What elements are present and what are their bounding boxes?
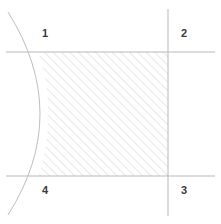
hatched-region [39, 52, 168, 176]
corner-label-1: 1 [42, 28, 48, 39]
corner-label-3: 3 [181, 185, 187, 196]
corner-label-2: 2 [181, 28, 187, 39]
figure-container: 1 2 3 4 [0, 0, 221, 224]
diagram-canvas [0, 0, 221, 224]
left-boundary-arc [8, 12, 40, 215]
corner-label-4: 4 [42, 185, 48, 196]
